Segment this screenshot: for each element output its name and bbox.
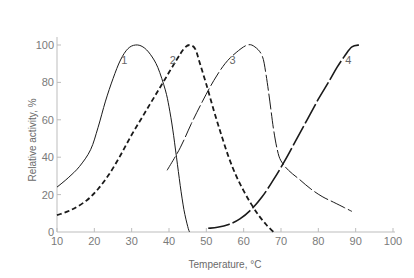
- x-tick-label: 20: [88, 235, 100, 247]
- curve-label-4: 4: [345, 54, 351, 66]
- curve-label-2: 2: [170, 54, 176, 66]
- x-tick-label: 50: [200, 235, 212, 247]
- chart: 102030405060708090100020406080100 1234 T…: [0, 0, 414, 278]
- curve-2: [57, 45, 274, 232]
- y-tick-label: 0: [48, 226, 54, 238]
- curve-label-1: 1: [121, 54, 127, 66]
- y-tick-label: 40: [42, 151, 54, 163]
- x-tick-label: 90: [350, 235, 362, 247]
- y-tick-label: 80: [42, 76, 54, 88]
- x-tick-label: 70: [275, 235, 287, 247]
- x-tick-label: 60: [238, 235, 250, 247]
- y-tick-label: 100: [36, 39, 54, 51]
- x-tick-label: 100: [384, 235, 402, 247]
- curve-4: [208, 45, 359, 228]
- y-tick-label: 60: [42, 114, 54, 126]
- y-tick-label: 20: [42, 189, 54, 201]
- x-axis-title: Temperature, °C: [189, 259, 262, 270]
- curves: [57, 45, 359, 232]
- curve-3: [167, 45, 352, 212]
- x-tick-label: 40: [163, 235, 175, 247]
- x-tick-label: 30: [126, 235, 138, 247]
- axes: 102030405060708090100020406080100: [36, 37, 403, 247]
- x-tick-label: 80: [312, 235, 324, 247]
- curve-label-3: 3: [229, 54, 235, 66]
- line-chart: 102030405060708090100020406080100 1234 T…: [0, 0, 414, 278]
- y-axis-title: Relative activity, %: [27, 98, 38, 181]
